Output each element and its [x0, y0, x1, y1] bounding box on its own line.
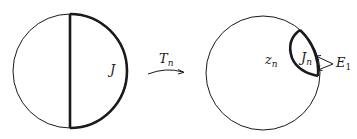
label-J: J — [110, 63, 115, 76]
diagram-canvas — [0, 0, 357, 139]
label-E1-sub: 1 — [346, 62, 352, 72]
label-Tn: Tn — [159, 52, 173, 68]
pointer-line-lower — [318, 64, 333, 70]
left-disk-arc-J — [70, 14, 127, 128]
label-Jn-sub: n — [306, 57, 312, 67]
label-Tn-sub: n — [168, 58, 174, 68]
label-zn-sub: n — [272, 59, 278, 69]
label-Tn-main: T — [159, 51, 168, 66]
label-Jn: Jn — [301, 51, 312, 67]
label-E1-main: E — [336, 55, 346, 70]
map-arrow-curve — [148, 70, 183, 74]
label-zn: zn — [265, 53, 278, 69]
diagram: J Tn zn Jn E1 — [0, 0, 357, 139]
label-E1: E1 — [336, 56, 351, 72]
label-zn-main: z — [265, 52, 272, 67]
